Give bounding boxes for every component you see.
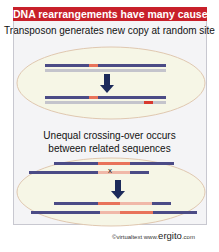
arrow-down-icon — [115, 180, 121, 192]
crossover-caption-line1: Unequal crossing-over occurs — [0, 130, 219, 141]
crossover-mark: x — [105, 166, 115, 175]
new-copy-segment — [144, 101, 153, 104]
crossover-caption-line2: between related sequences — [0, 143, 219, 154]
transposon-segment — [89, 64, 98, 67]
dna-strand-light — [45, 69, 166, 72]
dna-strand-dark — [45, 96, 166, 99]
diagram-graphics — [0, 0, 219, 252]
transposon-ellipse — [17, 47, 205, 119]
arrow-down-icon — [104, 74, 110, 86]
transposon-segment — [89, 96, 98, 99]
dna-strand-dark — [45, 64, 166, 67]
credit-text: ©virtualtext www.ergito.com — [112, 230, 195, 241]
